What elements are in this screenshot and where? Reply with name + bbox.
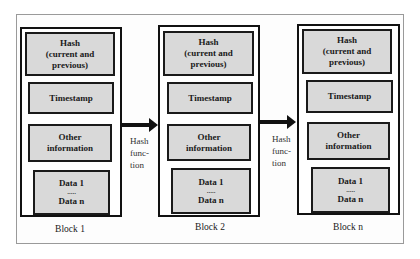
arrow-icon [122, 123, 151, 127]
other-info-field: Other information [307, 122, 390, 160]
connector-label: Hash func- tion [272, 133, 291, 169]
timestamp-field: Timestamp [167, 82, 253, 114]
other-label: information [326, 141, 372, 152]
data-field: Data 1 ..... Data n [311, 167, 390, 213]
hash-field: Hash (current and previous) [163, 31, 254, 76]
data-field: Data 1 ..... Data n [171, 168, 251, 214]
connector-label-line: Hash [272, 133, 291, 145]
timestamp-field: Timestamp [28, 82, 114, 114]
hash-field: Hash (current and previous) [302, 29, 392, 74]
other-info-field: Other information [28, 124, 112, 162]
connector-label-line: func- [130, 147, 149, 159]
hash-subtitle: previous) [329, 57, 365, 68]
timestamp-label: Timestamp [188, 93, 231, 104]
other-label: Other [59, 132, 82, 143]
other-label: Other [198, 132, 221, 143]
arrow-icon [260, 120, 289, 124]
data-last: Data n [198, 195, 224, 206]
hash-title: Hash [198, 37, 218, 48]
block-label: Block n [318, 222, 378, 232]
hash-title: Hash [337, 35, 357, 46]
connector-label: Hash func- tion [130, 135, 149, 171]
connector-label-line: tion [272, 157, 291, 169]
data-last: Data n [59, 196, 85, 207]
other-label: Other [337, 130, 360, 141]
timestamp-label: Timestamp [49, 93, 92, 104]
hash-field: Hash (current and previous) [25, 32, 115, 76]
hash-title: Hash [60, 38, 80, 49]
hash-subtitle: previous) [191, 59, 227, 70]
hash-subtitle: (current and [46, 49, 95, 60]
data-last: Data n [338, 194, 364, 205]
block-label: Block 2 [180, 222, 240, 232]
connector-label-line: func- [272, 145, 291, 157]
timestamp-label: Timestamp [328, 91, 371, 102]
data-first: Data 1 [338, 176, 363, 187]
data-ellipsis: ..... [207, 188, 216, 195]
data-first: Data 1 [198, 177, 223, 188]
data-ellipsis: ..... [67, 189, 76, 196]
other-info-field: Other information [167, 124, 251, 161]
hash-subtitle: previous) [52, 60, 88, 71]
data-ellipsis: ..... [346, 187, 355, 194]
data-field: Data 1 ..... Data n [33, 170, 110, 215]
hash-subtitle: (current and [323, 46, 372, 57]
timestamp-field: Timestamp [306, 80, 393, 113]
connector-label-line: tion [130, 159, 149, 171]
hash-subtitle: (current and [184, 48, 233, 59]
connector-label-line: Hash [130, 135, 149, 147]
other-label: information [186, 143, 232, 154]
other-label: information [47, 143, 93, 154]
block-label: Block 1 [40, 224, 100, 234]
